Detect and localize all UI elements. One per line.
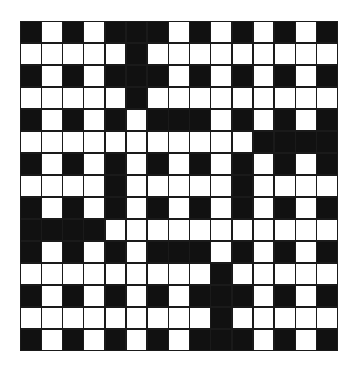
grid-square[interactable]: [275, 264, 295, 284]
grid-square[interactable]: [42, 88, 62, 108]
grid-square[interactable]: [148, 132, 168, 152]
grid-square[interactable]: [169, 132, 189, 152]
grid-square[interactable]: [211, 220, 231, 240]
grid-square[interactable]: [254, 88, 274, 108]
grid-square[interactable]: [233, 220, 253, 240]
grid-square[interactable]: [317, 308, 337, 328]
grid-square[interactable]: [275, 176, 295, 196]
grid-square[interactable]: [84, 44, 104, 64]
grid-square[interactable]: [127, 330, 147, 350]
grid-square[interactable]: [254, 198, 274, 218]
grid-square[interactable]: [296, 110, 316, 130]
grid-square[interactable]: [127, 286, 147, 306]
grid-square[interactable]: [296, 264, 316, 284]
grid-square[interactable]: [296, 242, 316, 262]
grid-square[interactable]: [169, 66, 189, 86]
grid-square[interactable]: [42, 66, 62, 86]
grid-square[interactable]: [42, 110, 62, 130]
grid-square[interactable]: [169, 154, 189, 174]
grid-square[interactable]: [148, 176, 168, 196]
grid-square[interactable]: [42, 132, 62, 152]
grid-square[interactable]: [296, 198, 316, 218]
grid-square[interactable]: [233, 308, 253, 328]
grid-square[interactable]: [211, 132, 231, 152]
grid-square[interactable]: [254, 176, 274, 196]
grid-square[interactable]: [275, 44, 295, 64]
grid-square[interactable]: [233, 44, 253, 64]
grid-square[interactable]: [21, 132, 41, 152]
grid-square[interactable]: [254, 330, 274, 350]
grid-square[interactable]: [106, 88, 126, 108]
grid-square[interactable]: [211, 154, 231, 174]
grid-square[interactable]: [190, 88, 210, 108]
grid-square[interactable]: [106, 308, 126, 328]
grid-square[interactable]: [296, 308, 316, 328]
grid-square[interactable]: [254, 44, 274, 64]
grid-square[interactable]: [254, 154, 274, 174]
grid-square[interactable]: [21, 308, 41, 328]
grid-square[interactable]: [317, 88, 337, 108]
grid-square[interactable]: [127, 110, 147, 130]
grid-square[interactable]: [211, 242, 231, 262]
grid-square[interactable]: [84, 286, 104, 306]
grid-square[interactable]: [211, 176, 231, 196]
grid-square[interactable]: [296, 154, 316, 174]
grid-square[interactable]: [190, 264, 210, 284]
grid-square[interactable]: [296, 220, 316, 240]
grid-square[interactable]: [84, 176, 104, 196]
grid-square[interactable]: [127, 220, 147, 240]
grid-square[interactable]: [42, 44, 62, 64]
grid-square[interactable]: [211, 198, 231, 218]
grid-square[interactable]: [63, 176, 83, 196]
grid-square[interactable]: [148, 220, 168, 240]
grid-square[interactable]: [169, 286, 189, 306]
grid-square[interactable]: [106, 132, 126, 152]
grid-square[interactable]: [21, 88, 41, 108]
grid-square[interactable]: [169, 198, 189, 218]
grid-square[interactable]: [169, 220, 189, 240]
grid-square[interactable]: [148, 88, 168, 108]
grid-square[interactable]: [63, 132, 83, 152]
grid-square[interactable]: [127, 154, 147, 174]
grid-square[interactable]: [127, 132, 147, 152]
grid-square[interactable]: [84, 22, 104, 42]
grid-square[interactable]: [233, 132, 253, 152]
grid-square[interactable]: [169, 88, 189, 108]
grid-square[interactable]: [84, 198, 104, 218]
grid-square[interactable]: [42, 154, 62, 174]
grid-square[interactable]: [42, 330, 62, 350]
grid-square[interactable]: [84, 330, 104, 350]
grid-square[interactable]: [106, 44, 126, 64]
grid-square[interactable]: [296, 66, 316, 86]
grid-square[interactable]: [190, 44, 210, 64]
grid-square[interactable]: [254, 22, 274, 42]
grid-square[interactable]: [42, 286, 62, 306]
grid-square[interactable]: [127, 176, 147, 196]
grid-square[interactable]: [21, 176, 41, 196]
grid-square[interactable]: [84, 66, 104, 86]
grid-square[interactable]: [296, 22, 316, 42]
grid-square[interactable]: [42, 176, 62, 196]
grid-square[interactable]: [211, 110, 231, 130]
grid-square[interactable]: [190, 132, 210, 152]
grid-square[interactable]: [84, 132, 104, 152]
grid-square[interactable]: [106, 264, 126, 284]
grid-square[interactable]: [254, 242, 274, 262]
grid-square[interactable]: [190, 220, 210, 240]
grid-square[interactable]: [254, 66, 274, 86]
grid-square[interactable]: [42, 242, 62, 262]
grid-square[interactable]: [84, 308, 104, 328]
grid-square[interactable]: [84, 264, 104, 284]
grid-square[interactable]: [63, 88, 83, 108]
grid-square[interactable]: [148, 308, 168, 328]
grid-square[interactable]: [317, 44, 337, 64]
grid-square[interactable]: [296, 44, 316, 64]
grid-square[interactable]: [211, 22, 231, 42]
grid-square[interactable]: [190, 308, 210, 328]
grid-square[interactable]: [190, 176, 210, 196]
grid-square[interactable]: [127, 308, 147, 328]
grid-square[interactable]: [148, 44, 168, 64]
grid-square[interactable]: [211, 66, 231, 86]
grid-square[interactable]: [42, 308, 62, 328]
grid-square[interactable]: [254, 308, 274, 328]
